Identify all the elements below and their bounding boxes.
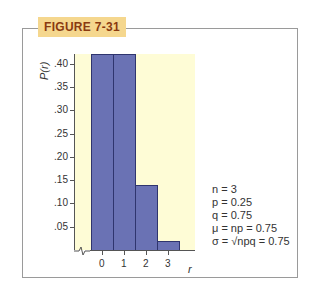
figure-label: FIGURE 7-31 — [38, 17, 126, 37]
y-tick-label: .35 — [40, 81, 68, 92]
y-tick-label: .20 — [40, 151, 68, 162]
y-tick-label: .30 — [40, 104, 68, 115]
stat-n: n = 3 — [212, 183, 290, 196]
y-tick-label: .15 — [40, 174, 68, 185]
stat-q: q = 0.75 — [212, 209, 290, 222]
x-tick-label: 1 — [121, 258, 127, 269]
bar-r-1 — [113, 54, 136, 251]
y-tick-label: .10 — [40, 197, 68, 208]
x-tick-label: 2 — [143, 258, 149, 269]
axis-break-icon — [74, 246, 90, 256]
y-tick-label: .05 — [40, 221, 68, 232]
x-tick-label: 3 — [165, 258, 171, 269]
bar-r-2 — [135, 185, 158, 251]
x-tick-label: 0 — [99, 258, 105, 269]
stat-mu: μ = np = 0.75 — [212, 222, 290, 235]
y-axis — [74, 54, 75, 250]
stat-sigma: σ = √npq = 0.75 — [212, 235, 290, 248]
stat-p: p = 0.25 — [212, 196, 290, 209]
x-axis — [90, 250, 195, 251]
bar-r-0 — [91, 54, 114, 251]
y-axis-title: P(r) — [38, 62, 50, 80]
stats-block: n = 3 p = 0.25 q = 0.75 μ = np = 0.75 σ … — [212, 183, 290, 248]
x-axis-title: r — [188, 263, 192, 275]
y-tick-label: .25 — [40, 128, 68, 139]
